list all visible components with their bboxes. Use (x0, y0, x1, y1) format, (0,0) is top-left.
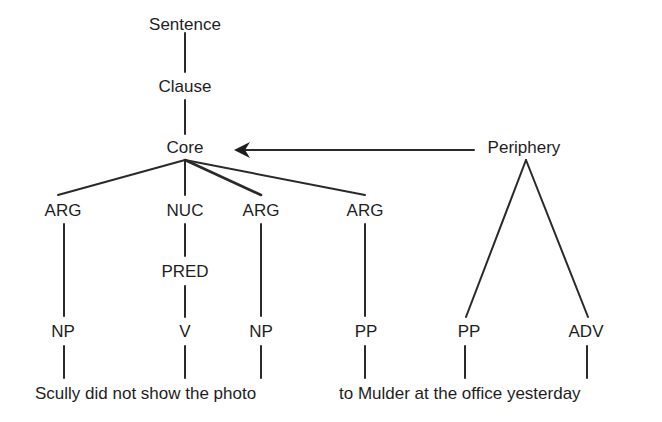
clause-structure-diagram: Sentence Clause Core Periphery ARG NUC A… (0, 0, 662, 422)
node-pp-2: PP (458, 322, 481, 342)
sentence-text-part-2: to Mulder at the office yesterday (339, 384, 581, 404)
node-sentence: Sentence (149, 15, 221, 35)
edge-core-arg3 (185, 160, 365, 195)
node-nuc: NUC (167, 201, 204, 221)
node-core: Core (167, 138, 204, 158)
node-np-2: NP (249, 322, 273, 342)
node-pred: PRED (161, 262, 208, 282)
tree-edges (0, 0, 662, 422)
node-v: V (179, 322, 190, 342)
node-periphery: Periphery (488, 138, 561, 158)
node-arg-3: ARG (347, 201, 384, 221)
node-np-1: NP (51, 322, 75, 342)
node-clause: Clause (159, 77, 212, 97)
node-adv: ADV (569, 322, 604, 342)
edge-core-arg1 (58, 160, 185, 195)
node-pp-1: PP (355, 322, 378, 342)
node-arg-2: ARG (243, 201, 280, 221)
edge-periphery-pp (466, 160, 526, 317)
edge-core-arg2 (185, 160, 261, 195)
sentence-text-part-1: Scully did not show the photo (35, 384, 256, 404)
edge-periphery-adv (526, 160, 588, 317)
node-arg-1: ARG (45, 201, 82, 221)
